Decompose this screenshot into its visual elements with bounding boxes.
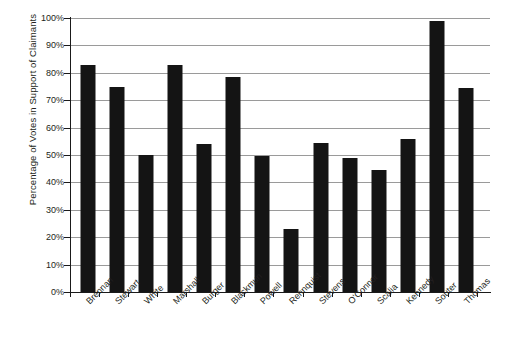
bar[interactable] — [81, 65, 96, 292]
bar[interactable] — [458, 88, 473, 292]
y-tick-label: 30% — [20, 205, 64, 215]
y-tick-label: 90% — [20, 40, 64, 50]
y-tick-label: 10% — [20, 260, 64, 270]
bar-slot — [248, 18, 277, 292]
y-tick-label: 20% — [20, 232, 64, 242]
bar-slot — [306, 18, 335, 292]
y-tick-label: 60% — [20, 123, 64, 133]
y-tick-label: 70% — [20, 95, 64, 105]
bar[interactable] — [284, 229, 299, 292]
bar-slot — [190, 18, 219, 292]
bar-slot — [132, 18, 161, 292]
bar[interactable] — [197, 144, 212, 292]
bar[interactable] — [342, 158, 357, 292]
bar-slot — [393, 18, 422, 292]
x-tick-mark — [70, 292, 71, 297]
bar[interactable] — [139, 155, 154, 292]
bar[interactable] — [168, 65, 183, 292]
bar-slot — [219, 18, 248, 292]
bar-slot — [103, 18, 132, 292]
bar-slot — [277, 18, 306, 292]
bar[interactable] — [429, 21, 444, 292]
bar-chart: Percentage of Votes in Support of Claima… — [0, 0, 518, 348]
bar-slot — [451, 18, 480, 292]
y-tick-label: 40% — [20, 177, 64, 187]
bar[interactable] — [226, 77, 241, 292]
y-tick-label: 0% — [20, 287, 64, 297]
bar-slot — [422, 18, 451, 292]
bar[interactable] — [400, 139, 415, 292]
y-tick-label: 100% — [20, 13, 64, 23]
bars-layer — [70, 18, 490, 292]
bar[interactable] — [110, 87, 125, 293]
bar-slot — [364, 18, 393, 292]
bar-slot — [335, 18, 364, 292]
bar-slot — [161, 18, 190, 292]
bar-slot — [73, 18, 102, 292]
y-axis-title: Percentage of Votes in Support of Claima… — [27, 0, 38, 234]
y-tick-label: 50% — [20, 150, 64, 160]
y-tick-label: 80% — [20, 68, 64, 78]
